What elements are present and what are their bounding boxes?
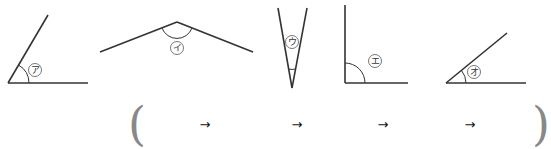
angle-e-label: エ bbox=[369, 55, 382, 68]
answer-row: ( ) → → → → bbox=[128, 97, 550, 149]
svg-text:オ: オ bbox=[470, 67, 479, 77]
svg-text:エ: エ bbox=[371, 56, 380, 66]
svg-text:イ: イ bbox=[173, 43, 182, 53]
arrow-icon: → bbox=[292, 117, 303, 132]
arrow-icon: → bbox=[378, 117, 389, 132]
angle-a-label: ア bbox=[29, 64, 42, 77]
close-paren: ) bbox=[532, 97, 550, 149]
angle-u-label: ウ bbox=[286, 36, 299, 49]
angle-o bbox=[446, 33, 526, 83]
angle-a bbox=[8, 15, 88, 83]
angle-e bbox=[345, 5, 408, 83]
arrow-icon: → bbox=[465, 117, 476, 132]
open-paren: ( bbox=[128, 97, 146, 149]
arrow-icon: → bbox=[200, 117, 211, 132]
angles-diagram: ア イ ウ エ オ ( ) → bbox=[0, 0, 551, 149]
angle-o-label: オ bbox=[468, 66, 481, 79]
svg-text:ア: ア bbox=[31, 65, 40, 75]
svg-text:ウ: ウ bbox=[288, 37, 297, 47]
angle-i-label: イ bbox=[171, 42, 184, 55]
